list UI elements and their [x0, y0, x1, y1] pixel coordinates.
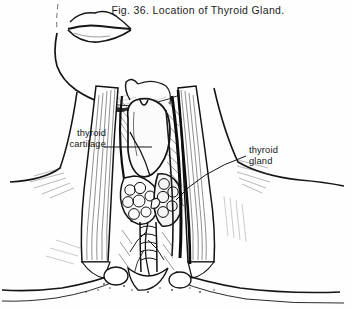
- lips-parting-icon: [68, 25, 131, 29]
- neck-border-right-icon: [214, 88, 344, 186]
- lip-shadow-icon: [74, 33, 110, 37]
- figure-page: Fig. 36. Location of Thyroid Gland.: [0, 0, 352, 309]
- tracheal-rings: [140, 226, 157, 260]
- annotation-thyroid-cartilage-line2: cartilage: [50, 139, 106, 150]
- trachea-group: [140, 222, 157, 272]
- superior-horn-icon: [126, 79, 139, 100]
- sternal-head-right-icon: [169, 272, 191, 288]
- annotation-thyroid-cartilage: thyroid cartilage: [50, 128, 106, 150]
- annotation-thyroid-cartilage-line1: thyroid: [50, 128, 106, 139]
- sternal-head-left-icon: [104, 267, 128, 285]
- trachea-icon: [140, 222, 157, 272]
- sternocleidomastoid-left-group: [81, 86, 118, 278]
- face-profile-left-icon: [57, 4, 58, 30]
- sternocleidomastoid-right-group: [178, 86, 215, 278]
- annotation-thyroid-gland: thyroid gland: [249, 145, 307, 167]
- lips-lower-icon: [68, 30, 131, 42]
- clavicle-shoulder-group: [2, 267, 344, 303]
- scm-right-insertion-icon: [188, 262, 214, 278]
- head-and-chin-group: [55, 4, 186, 112]
- annotation-thyroid-gland-line2: gland: [249, 156, 307, 167]
- annotation-thyroid-gland-line1: thyroid: [249, 145, 307, 156]
- chin-jaw-contour-icon: [55, 33, 100, 102]
- vessel-branch-c-icon: [134, 250, 144, 274]
